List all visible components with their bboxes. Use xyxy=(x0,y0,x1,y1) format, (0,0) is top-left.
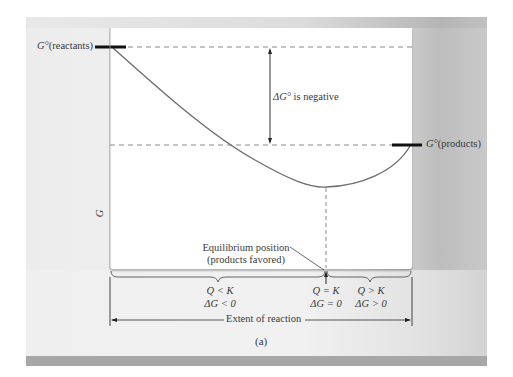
reactants-label: G°(reactants) xyxy=(37,40,93,51)
products-label: G°(products) xyxy=(426,138,481,149)
region-right-dg: ΔG > 0 xyxy=(346,297,396,310)
equilibrium-line1: Equilibrium position xyxy=(198,242,294,254)
delta-g-text: is negative xyxy=(291,91,339,102)
right-brace xyxy=(327,271,411,282)
products-symbol: G° xyxy=(426,138,438,149)
reactants-symbol: G° xyxy=(37,40,49,51)
reactants-text: (reactants) xyxy=(49,40,93,51)
y-axis-label: G xyxy=(94,210,105,218)
equilibrium-pointer-line xyxy=(290,247,324,270)
region-eq-dg: ΔG = 0 xyxy=(302,297,350,310)
extent-arrowhead-left-icon xyxy=(111,318,117,322)
products-text: (products) xyxy=(438,138,481,149)
region-eq-q: Q = K xyxy=(302,284,350,297)
delta-g-label: ΔG° is negative xyxy=(273,91,339,102)
region-equilibrium-label: Q = K ΔG = 0 xyxy=(302,284,350,310)
delta-g-arrowhead-up-icon xyxy=(268,48,272,54)
panel-label: (a) xyxy=(255,335,267,347)
delta-g-symbol: ΔG° xyxy=(273,91,291,102)
free-energy-curve xyxy=(112,47,410,187)
left-brace xyxy=(111,271,325,282)
delta-g-arrowhead-down-icon xyxy=(268,138,272,144)
extent-arrowhead-right-icon xyxy=(405,318,411,322)
region-left-dg: ΔG < 0 xyxy=(190,297,250,310)
equilibrium-line2: (products favored) xyxy=(198,254,294,266)
region-right-label: Q > K ΔG > 0 xyxy=(346,284,396,310)
region-right-q: Q > K xyxy=(346,284,396,297)
x-axis-label: Extent of reaction xyxy=(226,313,301,324)
region-left-label: Q < K ΔG < 0 xyxy=(190,284,250,310)
equilibrium-label: Equilibrium position (products favored) xyxy=(198,242,294,266)
region-left-q: Q < K xyxy=(190,284,250,297)
